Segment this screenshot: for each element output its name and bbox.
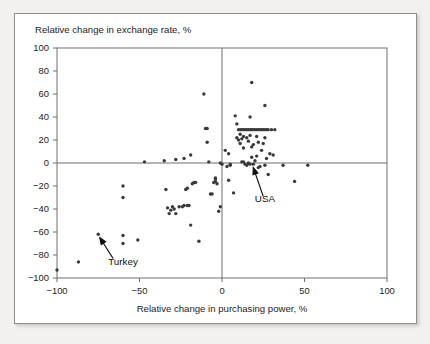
- data-point: [166, 206, 169, 209]
- data-point: [255, 135, 258, 138]
- data-points-layer: [55, 81, 309, 272]
- x-tick-label: 100: [379, 285, 395, 296]
- data-point: [220, 162, 223, 165]
- data-point: [174, 212, 177, 215]
- x-tick-label: 0: [219, 285, 224, 296]
- y-axis-title: Relative change in exchange rate, %: [35, 24, 192, 35]
- data-point: [182, 204, 185, 207]
- data-point: [143, 160, 146, 163]
- data-point: [215, 182, 218, 185]
- data-point: [260, 149, 263, 152]
- figure-root: Relative change in exchange rate, % −100…: [0, 0, 430, 344]
- y-tick-label: −20: [33, 180, 49, 191]
- data-point: [202, 92, 205, 95]
- data-point: [248, 162, 251, 165]
- data-point: [217, 210, 220, 213]
- data-point: [267, 128, 270, 131]
- data-point: [258, 165, 261, 168]
- data-point: [268, 152, 271, 155]
- data-point: [205, 127, 208, 130]
- data-point: [263, 104, 266, 107]
- chart-panel: Relative change in exchange rate, % −100…: [14, 13, 417, 324]
- y-tick-label: −40: [33, 203, 49, 214]
- data-point: [205, 141, 208, 144]
- data-point: [247, 139, 250, 142]
- data-point: [248, 115, 251, 118]
- y-tick-label: 60: [39, 88, 49, 99]
- data-point: [219, 205, 222, 208]
- data-point: [136, 238, 139, 241]
- data-point: [197, 240, 200, 243]
- data-point: [271, 153, 274, 156]
- y-tick-label: 20: [39, 134, 49, 145]
- x-axis-ticks: −100−50050100: [46, 278, 394, 296]
- data-point: [250, 81, 253, 84]
- y-tick-label: −80: [33, 249, 49, 260]
- data-point: [232, 191, 235, 194]
- data-point: [306, 164, 309, 167]
- data-point: [238, 133, 241, 136]
- annotation-arrowhead: [100, 238, 106, 245]
- data-point: [182, 157, 185, 160]
- data-point: [189, 153, 192, 156]
- data-point: [164, 188, 167, 191]
- data-point: [214, 176, 217, 179]
- data-point: [77, 260, 80, 263]
- x-tick-label: −100: [46, 285, 67, 296]
- y-tick-label: 80: [39, 65, 49, 76]
- data-point: [265, 157, 268, 160]
- x-tick-label: −50: [132, 285, 148, 296]
- data-point: [263, 136, 266, 139]
- data-point: [281, 164, 284, 167]
- data-point: [270, 128, 273, 131]
- data-point: [227, 179, 230, 182]
- data-point: [121, 234, 124, 237]
- data-point: [121, 242, 124, 245]
- y-tick-label: −60: [33, 226, 49, 237]
- data-point: [242, 135, 245, 138]
- data-point: [238, 142, 241, 145]
- data-point: [168, 212, 171, 215]
- data-point: [207, 160, 210, 163]
- data-point: [235, 122, 238, 125]
- data-point: [172, 207, 175, 210]
- y-tick-label: 0: [44, 157, 49, 168]
- data-point: [252, 162, 255, 165]
- data-point: [177, 205, 180, 208]
- data-point: [267, 173, 270, 176]
- scatter-chart: Relative change in exchange rate, % −100…: [15, 14, 416, 323]
- data-point: [174, 158, 177, 161]
- data-point: [293, 180, 296, 183]
- data-point: [237, 138, 240, 141]
- data-point: [224, 149, 227, 152]
- data-point: [194, 181, 197, 184]
- y-tick-label: 40: [39, 111, 49, 122]
- y-tick-label: −100: [28, 272, 49, 283]
- data-point: [242, 146, 245, 149]
- data-point: [248, 134, 251, 137]
- x-tick-label: 50: [299, 285, 309, 296]
- x-axis-title: Relative change in purchasing power, %: [137, 303, 308, 314]
- data-point: [121, 184, 124, 187]
- data-point: [187, 204, 190, 207]
- data-point: [227, 152, 230, 155]
- data-point: [262, 142, 265, 145]
- data-point: [210, 192, 213, 195]
- data-point: [229, 162, 232, 165]
- data-point: [255, 154, 258, 157]
- y-tick-label: 100: [33, 42, 49, 53]
- data-point: [169, 208, 172, 211]
- data-point: [121, 196, 124, 199]
- data-point: [263, 164, 266, 167]
- annotations-layer: TurkeyUSA: [100, 168, 276, 268]
- data-point: [252, 143, 255, 146]
- data-point: [186, 187, 189, 190]
- data-point: [250, 156, 253, 159]
- data-point: [97, 233, 100, 236]
- data-point: [245, 136, 248, 139]
- data-point: [163, 159, 166, 162]
- data-point: [234, 114, 237, 117]
- annotation-label: Turkey: [108, 256, 138, 267]
- data-point: [189, 223, 192, 226]
- annotation-label: USA: [255, 193, 276, 204]
